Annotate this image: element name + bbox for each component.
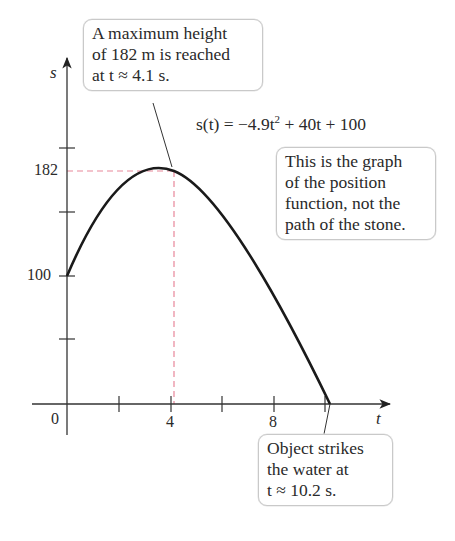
callout-line: Object strikes [267,438,386,459]
position-note-callout: This is the graph of the position functi… [276,147,436,240]
callout-line: at t ≈ 4.1 s. [92,65,256,86]
water-strike-callout: Object strikes the water at t ≈ 10.2 s. [258,434,393,506]
callout-line: function, not the [285,193,429,214]
callout-line: of 182 m is reached [92,44,256,65]
y-tick-label-182: 182 [34,161,58,179]
callout-line: the water at [267,459,386,480]
callout-line: A maximum height [92,23,256,44]
x-tick-label-8: 8 [269,413,277,431]
callout-line: t ≈ 10.2 s. [267,480,386,501]
origin-label: 0 [51,410,59,428]
function-formula: s(t) = −4.9t2 + 40t + 100 [196,113,366,135]
y-axis-label: s [50,63,57,83]
max-leader-line [153,103,172,167]
y-tick-label-100: 100 [27,266,51,284]
x-axis-label: t [376,409,381,429]
callout-line: This is the graph [285,151,429,172]
callout-line: of the position [285,172,429,193]
formula-lhs: s(t) = −4.9t [196,114,275,134]
callout-line: path of the stone. [285,214,429,235]
max-height-callout: A maximum height of 182 m is reached at … [83,19,263,91]
x-tick-label-4: 4 [166,413,174,431]
formula-rhs: + 40t + 100 [280,114,366,134]
